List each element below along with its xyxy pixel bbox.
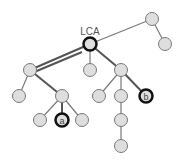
tree-node (159, 38, 172, 51)
lca-label: LCA (80, 26, 100, 37)
tree-diagram: LCA a b (0, 0, 181, 164)
tree-node (34, 114, 47, 127)
tree-node (84, 64, 97, 77)
tree-node (146, 13, 159, 26)
tree-node (115, 140, 128, 153)
path-edges (30, 44, 146, 120)
tree-node (76, 114, 89, 127)
tree-node (56, 90, 69, 103)
tree-node (93, 90, 106, 103)
tree-node (115, 114, 128, 127)
node-a-label: a (59, 116, 64, 126)
lca-node (84, 38, 97, 51)
tree-node (115, 64, 128, 77)
tree-node (115, 90, 128, 103)
tree-node (24, 64, 37, 77)
node-b-label: b (143, 92, 148, 102)
tree-node (13, 90, 26, 103)
